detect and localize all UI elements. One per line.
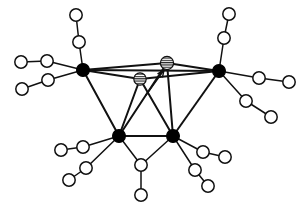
atom-node-H2 [160,56,173,69]
atom-node-L6 [16,83,28,95]
atom-node-M2 [213,65,226,78]
atom-node-L7 [223,8,235,20]
atom-node-L9 [253,72,265,84]
atom-node-L5 [42,74,54,86]
figure-root [0,0,307,218]
atom-node-L12 [265,111,277,123]
atom-node-M3 [113,130,126,143]
bond-M1-M2 [83,70,219,71]
atom-node-L21 [189,164,201,176]
atom-node-L3 [41,55,53,67]
atom-node-M4 [167,130,180,143]
atom-node-M1 [77,64,90,77]
atom-node-L17 [135,159,147,171]
atom-node-L19 [197,146,209,158]
atom-node-L16 [63,174,75,186]
atom-node-L18 [135,189,147,201]
atom-node-L11 [240,95,252,107]
atom-node-L20 [219,151,231,163]
atom-node-L13 [77,141,89,153]
atom-node-L14 [55,144,67,156]
atom-node-L1 [70,9,82,21]
diagram-background [0,0,307,218]
atom-node-L10 [283,76,295,88]
atom-node-L2 [73,36,85,48]
atom-node-H1 [134,73,146,85]
cluster-structure-diagram [0,0,307,218]
atom-node-L4 [15,56,27,68]
atom-node-L8 [218,32,230,44]
atom-node-L22 [202,180,214,192]
atom-node-L15 [80,162,92,174]
